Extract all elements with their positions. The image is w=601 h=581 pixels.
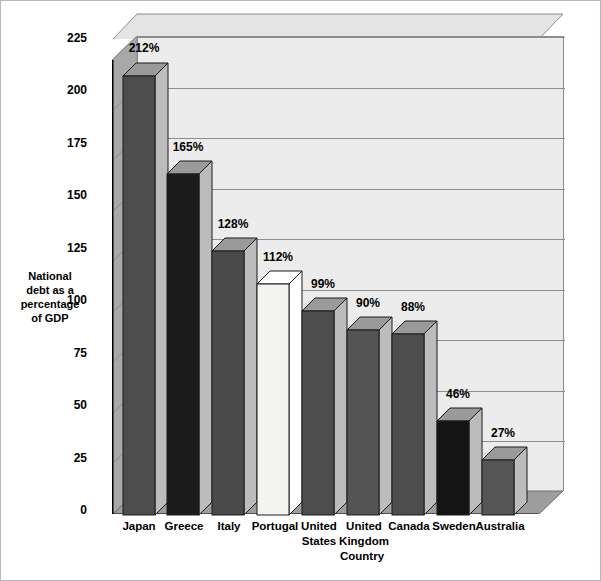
x-tick-label-australia: Australia	[465, 519, 535, 534]
bar-united-states	[302, 311, 334, 515]
y-tick-label: 100	[53, 294, 87, 306]
bar-value-japan: 212%	[118, 41, 170, 55]
y-tick-label: 125	[53, 242, 87, 254]
bar-japan	[123, 76, 155, 515]
y-tick-label: 75	[53, 347, 87, 359]
y-tick-label: 25	[53, 452, 87, 464]
bar-sweden	[437, 421, 469, 515]
bar-australia	[482, 460, 514, 515]
y-tick-label: 200	[53, 84, 87, 96]
bar-canada	[392, 334, 424, 515]
y-tick-label: 150	[53, 189, 87, 201]
y-tick-label: 225	[53, 32, 87, 44]
bar-value-italy: 128%	[207, 217, 259, 231]
bar-united-kingdom	[347, 330, 379, 515]
bar-value-sweden: 46%	[432, 387, 484, 401]
bar-portugal	[257, 284, 289, 515]
bar-value-australia: 27%	[477, 426, 529, 440]
bar-value-greece: 165%	[162, 140, 214, 154]
y-tick-label: 0	[53, 504, 87, 516]
bar-greece	[167, 174, 199, 515]
bar-value-portugal: 112%	[252, 250, 304, 264]
bar-value-canada: 88%	[387, 300, 439, 314]
x-axis-label: Country	[317, 550, 407, 562]
y-tick-label: 175	[53, 137, 87, 149]
bar-value-united-states: 99%	[297, 277, 349, 291]
y-tick-label: 50	[53, 399, 87, 411]
chart-figure: National debt as a percentage of GDP 225…	[0, 0, 601, 581]
bar-italy	[212, 251, 244, 515]
